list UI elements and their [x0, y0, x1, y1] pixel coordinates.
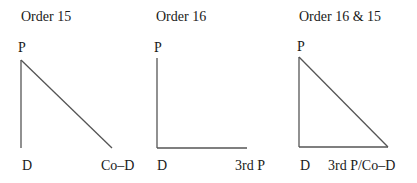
diagram-lines	[0, 0, 417, 183]
diagram-3-line-3	[299, 57, 388, 147]
diagram-1-line-2	[21, 60, 112, 148]
